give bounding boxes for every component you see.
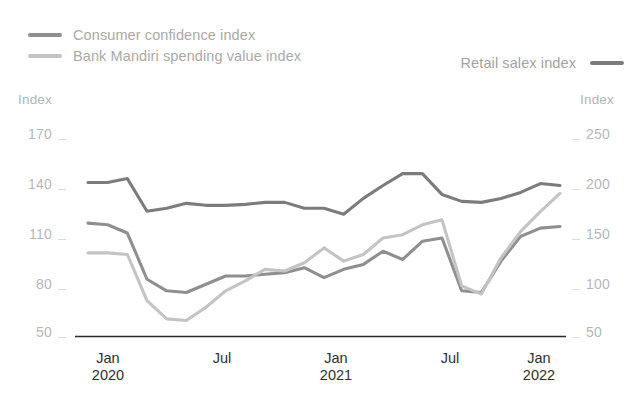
x-axis-month: Jan bbox=[527, 350, 550, 366]
x-axis-month: Jan bbox=[324, 350, 347, 366]
x-axis-year: 2020 bbox=[63, 367, 153, 384]
series-line-bank-mandiri bbox=[88, 193, 560, 320]
x-axis-month: Jul bbox=[213, 350, 232, 366]
x-axis-year: 2021 bbox=[291, 367, 381, 384]
series-line-retail-sales bbox=[88, 174, 560, 215]
x-axis-label-jan-2021: Jan 2021 bbox=[291, 350, 381, 384]
x-axis-label-jan-2022: Jan 2022 bbox=[494, 350, 584, 384]
x-axis-label-jul-2021: Jul bbox=[405, 350, 495, 367]
x-axis-month: Jan bbox=[96, 350, 119, 366]
x-axis-month: Jul bbox=[441, 350, 460, 366]
x-axis-year: 2022 bbox=[494, 367, 584, 384]
x-axis-label-jan-2020: Jan 2020 bbox=[63, 350, 153, 384]
plot-area bbox=[0, 0, 638, 405]
chart-container: Consumer confidence index Bank Mandiri s… bbox=[0, 0, 638, 405]
x-axis-label-jul-2020: Jul bbox=[177, 350, 267, 367]
